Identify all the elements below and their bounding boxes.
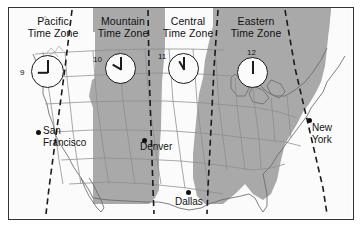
zone-label-eastern: Eastern Time Zone	[221, 15, 291, 39]
clock-eastern-hub	[252, 72, 254, 74]
city-label-san-francisco-line2: Francisco	[43, 137, 86, 149]
clock-pacific-hour-label: 9	[20, 68, 24, 77]
clock-central	[168, 53, 199, 84]
zone-label-mountain-line1: Mountain	[87, 15, 159, 27]
clock-mountain	[105, 53, 136, 84]
map-geography-layer	[9, 8, 351, 217]
clock-mountain-hour-label: 10	[93, 55, 102, 64]
zone-label-pacific: Pacific Time Zone	[15, 15, 91, 39]
clock-central-hub	[183, 68, 185, 70]
zone-label-central-line2: Time Zone	[154, 27, 222, 39]
zone-label-pacific-line2: Time Zone	[15, 27, 91, 39]
zone-label-mountain-line2: Time Zone	[87, 27, 159, 39]
clock-eastern	[237, 57, 268, 88]
city-label-denver: Denver	[140, 141, 172, 153]
zone-label-central: Central Time Zone	[154, 15, 222, 39]
clock-pacific	[31, 55, 64, 88]
zone-label-central-line1: Central	[154, 15, 222, 27]
zone-label-eastern-line2: Time Zone	[221, 27, 291, 39]
city-label-dallas: Dallas	[175, 196, 203, 208]
zone-label-pacific-line1: Pacific	[15, 15, 91, 27]
clock-central-hour-label: 11	[158, 52, 166, 61]
city-label-san-francisco-line1: San	[43, 125, 86, 137]
clock-pacific-hub	[47, 71, 49, 73]
city-label-new-york: New York	[312, 122, 332, 145]
city-label-denver-line1: Denver	[140, 141, 172, 153]
city-dot-san-francisco	[36, 130, 41, 135]
time-zone-map-figure: Pacific Time Zone Mountain Time Zone Cen…	[0, 0, 361, 232]
city-label-new-york-line1: New	[312, 122, 332, 134]
city-label-new-york-line2: York	[312, 134, 332, 146]
zone-label-eastern-line1: Eastern	[221, 15, 291, 27]
city-label-san-francisco: San Francisco	[43, 125, 86, 148]
map-frame: Pacific Time Zone Mountain Time Zone Cen…	[8, 7, 354, 220]
clock-eastern-hour-label: 12	[247, 48, 256, 57]
zone-label-mountain: Mountain Time Zone	[87, 15, 159, 39]
city-label-dallas-line1: Dallas	[175, 196, 203, 208]
city-dot-dallas	[186, 190, 191, 195]
clock-mountain-hub	[120, 68, 122, 70]
